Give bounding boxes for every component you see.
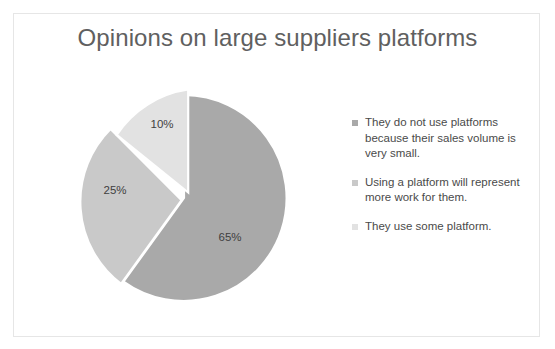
- chart-title: Opinions on large suppliers platforms: [0, 24, 555, 52]
- legend-marker-icon: [352, 120, 358, 126]
- legend-marker-icon: [352, 180, 358, 186]
- pie-label-10: 10%: [150, 118, 173, 130]
- legend-item-label: They use some platform.: [365, 219, 492, 235]
- pie-label-65: 65%: [218, 231, 241, 243]
- legend-item-label: They do not use platforms because their …: [365, 115, 532, 162]
- pie-chart-svg: 65% 25% 10%: [72, 88, 296, 312]
- legend-item-label: Using a platform will represent more wor…: [365, 175, 532, 206]
- slide-canvas: Opinions on large suppliers platforms 65…: [0, 0, 555, 349]
- pie-label-25: 25%: [103, 184, 126, 196]
- pie-chart: 65% 25% 10%: [72, 88, 296, 312]
- legend-item-no-platforms[interactable]: They do not use platforms because their …: [352, 115, 532, 162]
- legend-item-more-work[interactable]: Using a platform will represent more wor…: [352, 175, 532, 206]
- legend-marker-icon: [352, 224, 358, 230]
- legend-item-use-platform[interactable]: They use some platform.: [352, 219, 532, 235]
- chart-legend: They do not use platforms because their …: [352, 115, 532, 234]
